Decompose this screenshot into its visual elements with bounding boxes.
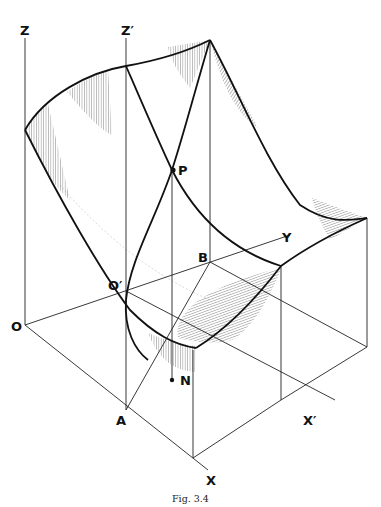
label-X: X (206, 473, 216, 488)
peak-right-curve (210, 40, 367, 220)
point-P (170, 167, 175, 172)
label-X-prime: X′ (303, 413, 317, 428)
figure-caption: Fig. 3.4 (172, 493, 209, 504)
label-B: B (198, 250, 208, 265)
label-A: A (116, 413, 126, 428)
label-P: P (178, 163, 188, 178)
label-Z: Z (20, 23, 29, 38)
parabola-through-P-1 (126, 66, 281, 266)
base-front (193, 400, 281, 458)
label-Y: Y (281, 230, 292, 245)
point-N (170, 378, 174, 382)
label-O: O (11, 319, 22, 334)
label-N: N (180, 373, 191, 388)
saddle-surface-diagram: Z Z′ O O′ A B Y X X′ P N Fig. 3.4 (0, 0, 381, 507)
label-Z-prime: Z′ (121, 23, 134, 38)
hidden-contour (60, 185, 210, 300)
base-right (281, 347, 367, 400)
label-O-prime: O′ (108, 278, 123, 293)
